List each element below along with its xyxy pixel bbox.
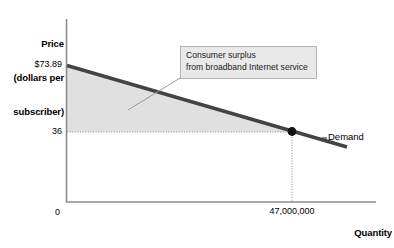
consumer-surplus-chart: Price (dollars per subscriber) Quantity … xyxy=(0,0,394,248)
y-axis-title: Price (dollars per subscriber) xyxy=(2,16,64,139)
y-tick-label-7389: $73.89 xyxy=(18,59,62,70)
y-tick-label-36: 36 xyxy=(18,126,62,137)
y-axis-title-line2: (dollars per xyxy=(2,72,64,83)
x-axis-title-line1: Quantity xyxy=(300,227,392,238)
x-tick-label-47000000: 47,000,000 xyxy=(243,206,341,217)
origin-label: 0 xyxy=(44,207,60,218)
y-axis-title-line1: Price xyxy=(2,38,64,49)
y-axis-title-line3: subscriber) xyxy=(2,106,64,117)
demand-curve-label: Demand xyxy=(328,131,364,142)
equilibrium-point-marker xyxy=(288,127,297,136)
consumer-surplus-callout: Consumer surplus from broadband Internet… xyxy=(180,46,317,79)
